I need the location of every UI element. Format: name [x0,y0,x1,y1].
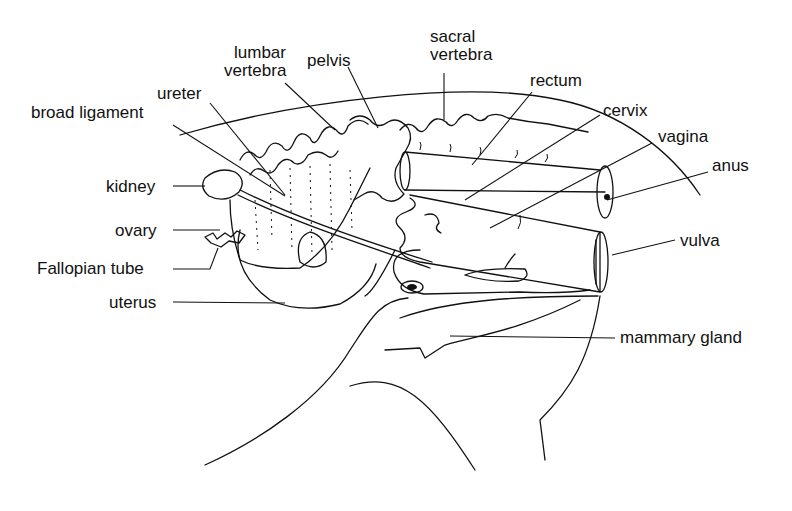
label-rectum: rectum [530,72,582,90]
label-sacral-line2: vertebra [430,46,492,64]
label-ureter: ureter [157,85,201,103]
rectum [405,152,605,192]
label-sacral-line1: sacral [430,28,492,46]
cervix-folds [425,214,441,233]
label-mammary-gland: mammary gland [620,329,742,347]
label-sacral-vertebra: sacral vertebra [430,28,492,64]
label-lumbar-vertebra: lumbar vertebra [224,44,286,80]
label-vagina: vagina [658,128,708,146]
label-anus: anus [712,157,749,175]
kidney [203,170,242,199]
sacral-vertebrae [400,114,588,132]
label-lumbar-line2: vertebra [224,62,286,80]
label-vulva: vulva [680,232,720,250]
anatomy-diagram: lumbar vertebra pelvis sacral vertebra u… [0,0,792,511]
label-lumbar-line1: lumbar [224,44,286,62]
label-kidney: kidney [106,178,155,196]
ureter-tube [238,195,430,268]
label-fallopian-tube: Fallopian tube [37,260,144,278]
mammary-outline [385,300,580,358]
label-cervix: cervix [603,102,647,120]
label-pelvis: pelvis [307,52,350,70]
broad-ligament-body [230,168,370,268]
rectum-opening [400,152,410,190]
label-uterus: uterus [109,294,156,312]
label-broad-ligament: broad ligament [31,104,143,122]
lumbar-vertebrae [240,120,368,160]
label-ovary: ovary [115,222,157,240]
vagina [396,195,600,292]
diagram-drawing [0,0,792,511]
